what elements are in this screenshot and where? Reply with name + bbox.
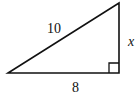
triangle-figure: 10 x 8 xyxy=(0,0,139,100)
hypotenuse-label: 10 xyxy=(47,21,61,36)
right-angle-marker-icon xyxy=(109,63,119,73)
triangle-outline xyxy=(8,3,119,73)
vertical-leg-label: x xyxy=(127,34,135,49)
base-label: 8 xyxy=(72,80,79,95)
right-triangle-diagram: 10 x 8 xyxy=(0,0,139,100)
